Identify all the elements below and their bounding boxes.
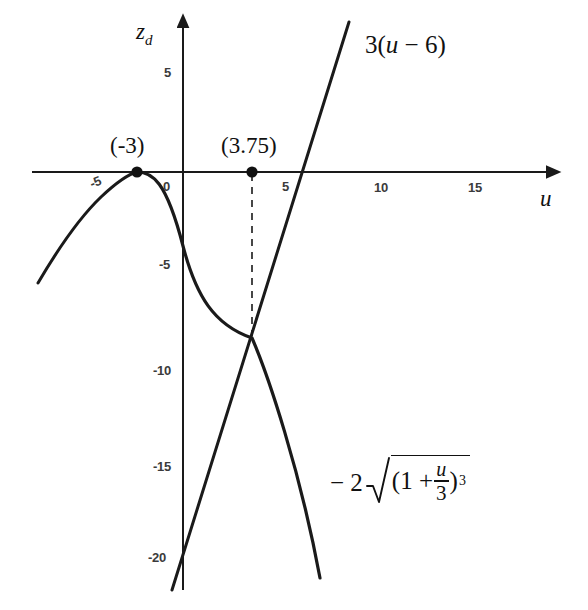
- plot-graphics: [0, 0, 588, 610]
- y-tick-label-5: 5: [164, 66, 171, 79]
- y-tick-label-minus5: -5: [159, 258, 170, 271]
- fraction-u-over-3: u 3: [434, 459, 449, 504]
- x-tick-label-5: 5: [282, 180, 289, 193]
- curve-label-line-operator: − 6): [398, 31, 445, 58]
- radicand-close: ): [450, 468, 458, 494]
- square-root-icon: [366, 455, 392, 505]
- marked-point-minus3: [131, 166, 142, 177]
- annotation-root-point: (-3): [110, 134, 144, 157]
- curve-sqrt-left-branch: [38, 172, 137, 283]
- y-axis-label-subscript: d: [145, 32, 153, 48]
- curve-label-line: 3(u − 6): [365, 32, 446, 57]
- curve-label-line-coefficient: 3(: [365, 31, 386, 58]
- annotation-intersection-point: (3.75): [221, 134, 277, 157]
- x-tick-label-10: 10: [374, 181, 388, 194]
- radical-group: (1 + u 3 )3: [366, 455, 470, 505]
- figure-canvas: -5 0 5 10 15 5 -5 -10 -15 -20 zd u (-3) …: [0, 0, 588, 610]
- x-tick-label-0: 0: [163, 180, 170, 193]
- y-tick-label-minus10: -10: [153, 364, 171, 377]
- radical-lead-coefficient: − 2: [330, 455, 366, 497]
- fraction-numerator: u: [434, 459, 448, 480]
- x-axis-label: u: [540, 187, 552, 210]
- radicand-exponent: 3: [458, 474, 466, 488]
- fraction-denominator: 3: [434, 482, 449, 504]
- curve-line-3u-6: [172, 22, 349, 590]
- y-axis-label: zd: [136, 20, 152, 48]
- x-tick-label-15: 15: [468, 181, 482, 194]
- curve-label-line-variable: u: [386, 31, 399, 58]
- y-tick-label-minus20: -20: [148, 551, 166, 564]
- radicand-expression: (1 + u 3 )3: [391, 455, 470, 504]
- radicand-open: (1 +: [392, 468, 433, 494]
- marked-point-3p75: [246, 166, 257, 177]
- y-axis-label-base: z: [136, 19, 145, 44]
- curve-label-radical: − 2 (1 + u 3 )3: [330, 455, 470, 505]
- y-tick-label-minus15: -15: [153, 460, 171, 473]
